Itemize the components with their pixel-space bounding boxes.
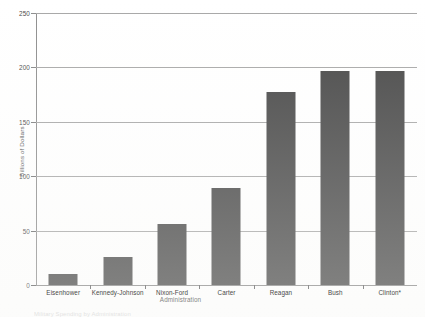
y-tick-label-200: 200 — [4, 64, 30, 71]
bar-slot — [363, 13, 417, 285]
bar-slot — [199, 13, 253, 285]
bar-bush — [321, 71, 350, 285]
x-tick-mark-4 — [308, 285, 309, 289]
y-tick-mark-250 — [31, 13, 36, 14]
x-tick-mark-2 — [199, 285, 200, 289]
bar-carter — [212, 188, 241, 285]
gridline-0 — [36, 285, 417, 286]
y-tick-mark-100 — [31, 176, 36, 177]
bar-nixon-ford — [158, 224, 187, 285]
bar-slot — [308, 13, 362, 285]
y-tick-label-0: 0 — [4, 282, 30, 289]
chart-footnote: Military Spending by Administration — [34, 311, 131, 317]
y-tick-mark-150 — [31, 122, 36, 123]
x-tick-mark-3 — [254, 285, 255, 289]
bar-reagan — [266, 92, 295, 285]
x-tick-label-4: Reagan — [270, 289, 293, 296]
y-tick-label-250: 250 — [4, 10, 30, 17]
y-tick-mark-50 — [31, 231, 36, 232]
bar-chart-figure: Billions of Dollars 050100150200250 Admi… — [0, 0, 425, 317]
x-tick-label-6: Clinton* — [378, 289, 401, 296]
x-tick-mark-1 — [145, 285, 146, 289]
x-tick-label-2: Nixon-Ford — [156, 289, 188, 296]
bar-kennedy-johnson — [103, 257, 132, 285]
y-tick-label-50: 50 — [4, 227, 30, 234]
bar-slot — [36, 13, 90, 285]
bar-eisenhower — [49, 274, 78, 285]
x-tick-label-3: Carter — [218, 289, 236, 296]
x-tick-label-1: Kennedy-Johnson — [92, 289, 144, 296]
bar-slot — [145, 13, 199, 285]
y-tick-mark-200 — [31, 67, 36, 68]
bar-slot — [90, 13, 144, 285]
bars-layer — [36, 13, 417, 285]
x-tick-label-5: Bush — [328, 289, 343, 296]
y-tick-label-150: 150 — [4, 118, 30, 125]
y-tick-label-100: 100 — [4, 173, 30, 180]
x-tick-mark-5 — [363, 285, 364, 289]
y-tick-mark-0 — [31, 285, 36, 286]
bar-clinton — [375, 71, 404, 285]
x-axis-title: Administration — [0, 296, 393, 303]
bar-slot — [254, 13, 308, 285]
y-axis-tick-labels: 050100150200250 — [0, 0, 30, 317]
x-tick-label-0: Eisenhower — [46, 289, 80, 296]
